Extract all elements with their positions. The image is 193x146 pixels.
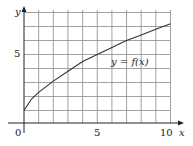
y-tick-5: 5 bbox=[14, 48, 20, 59]
curve-label: y = f(x) bbox=[110, 56, 149, 67]
x-tick-10: 10 bbox=[160, 127, 173, 138]
x-axis-arrow-icon bbox=[178, 121, 184, 126]
x-tick-0: 0 bbox=[15, 127, 21, 138]
chart: y x 5 0 5 10 y = f(x) bbox=[0, 0, 193, 146]
y-axis-arrow-icon bbox=[22, 6, 27, 12]
x-axis-label: x bbox=[179, 127, 185, 138]
y-axis-label: y bbox=[14, 6, 21, 17]
x-tick-5: 5 bbox=[94, 127, 100, 138]
